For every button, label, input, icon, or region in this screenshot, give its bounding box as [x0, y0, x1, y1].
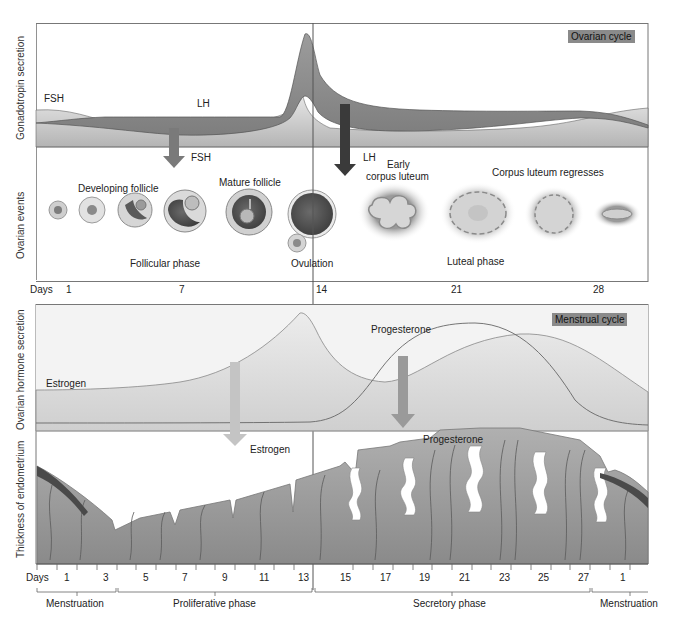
lh-label: LH — [197, 98, 210, 109]
ovarian-day: 28 — [593, 284, 604, 295]
estrogen-arrow-label: Estrogen — [250, 444, 290, 455]
ovarian-day: 21 — [451, 284, 462, 295]
menstrual-day: 23 — [499, 572, 510, 583]
phase-proliferative: Proliferative phase — [173, 598, 256, 609]
mature-follicle-label: Mature follicle — [219, 177, 281, 188]
y-label-gonadotropin: Gonadotropin secretion — [15, 36, 26, 140]
early-corpus-luteum-label-1: Early — [387, 159, 410, 170]
menstrual-day: 1 — [620, 572, 626, 583]
corpus-luteum-icons — [358, 182, 641, 244]
menstrual-day: 19 — [419, 572, 430, 583]
developing-follicle-label: Developing follicle — [78, 183, 159, 194]
fsh-arrow-label: FSH — [191, 152, 211, 163]
menstrual-day: 13 — [298, 572, 309, 583]
menstrual-day: 7 — [182, 572, 188, 583]
menstrual-cycle-diagram — [0, 0, 673, 624]
y-label-endometrium: Thickness of endometrium — [15, 441, 26, 558]
menstrual-day: 5 — [143, 572, 149, 583]
y-label-ovarian-events: Ovarian events — [15, 192, 26, 259]
menstrual-day: 27 — [578, 572, 589, 583]
progesterone-arrow-label: Progesterone — [423, 434, 483, 445]
estrogen-label: Estrogen — [46, 378, 86, 389]
menstrual-day: 11 — [259, 572, 269, 583]
early-corpus-luteum-label-2: corpus luteum — [366, 171, 429, 182]
endometrium-layer — [37, 428, 648, 564]
luteal-phase-label: Luteal phase — [447, 256, 504, 267]
ovarian-day: 1 — [66, 284, 72, 295]
menstrual-cycle-badge: Menstrual cycle — [552, 313, 627, 326]
menstrual-days-label: Days — [26, 572, 49, 583]
menstrual-day: 17 — [380, 572, 391, 583]
menstrual-day: 15 — [340, 572, 351, 583]
ovarian-day: 14 — [316, 284, 327, 295]
menstrual-day: 1 — [64, 572, 70, 583]
menstrual-day: 9 — [222, 572, 228, 583]
phase-secretory: Secretory phase — [413, 598, 486, 609]
phase-menstruation-start: Menstruation — [46, 598, 104, 609]
lh-arrow-label: LH — [363, 152, 376, 163]
ovarian-day: 7 — [179, 284, 185, 295]
progesterone-label: Progesterone — [371, 324, 431, 335]
ovarian-days-label: Days — [30, 284, 53, 295]
menstrual-day: 3 — [103, 572, 109, 583]
ovarian-panel — [36, 23, 648, 282]
ovulation-label: Ovulation — [291, 258, 333, 269]
follicle-icons — [49, 189, 336, 252]
phase-menstruation-end: Menstruation — [600, 598, 658, 609]
fsh-label: FSH — [44, 93, 64, 104]
menstrual-day: 21 — [459, 572, 470, 583]
follicular-phase-label: Follicular phase — [130, 258, 200, 269]
corpus-luteum-regresses-label: Corpus luteum regresses — [492, 167, 604, 178]
menstrual-day: 25 — [538, 572, 549, 583]
y-label-ovarian-hormone: Ovarian hormone secretion — [15, 309, 26, 430]
menstrual-panel — [36, 304, 648, 564]
ovarian-cycle-badge: Ovarian cycle — [568, 30, 635, 43]
